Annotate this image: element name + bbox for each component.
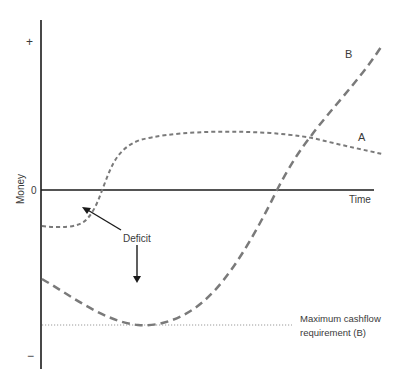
- y-axis-title: Money: [15, 174, 26, 204]
- series-a-label: A: [358, 131, 366, 143]
- max-cashflow-label-line2: requirement (B): [300, 327, 366, 338]
- max-cashflow-label-line1: Maximum cashflow: [300, 313, 381, 324]
- y-tick-minus: −: [27, 349, 34, 363]
- x-axis-title: Time: [349, 194, 371, 205]
- cashflow-chart: + 0 − Money Time B A Deficit Maximum cas…: [0, 0, 403, 380]
- deficit-label: Deficit: [123, 233, 151, 244]
- curve-b: [42, 44, 383, 325]
- y-tick-zero: 0: [31, 185, 37, 196]
- deficit-arrow-b-head: [133, 276, 141, 283]
- y-tick-plus: +: [26, 35, 33, 49]
- deficit-arrow-a: [86, 209, 121, 230]
- series-b-label: B: [345, 48, 352, 60]
